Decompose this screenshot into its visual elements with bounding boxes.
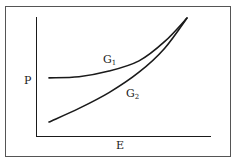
y-axis-label: P	[24, 74, 32, 87]
chart: P E G1 G2	[0, 0, 236, 163]
x-axis-label: E	[116, 139, 124, 152]
series-label-g1-main: G	[103, 53, 112, 66]
series-label-g1-sub: 1	[112, 59, 116, 67]
series-label-g1: G1	[103, 53, 116, 67]
series-label-g2-main: G	[126, 87, 135, 100]
curve-g2	[49, 18, 187, 122]
series-label-g2: G2	[126, 87, 139, 101]
series-label-g2-sub: 2	[135, 93, 139, 101]
chart-frame	[6, 7, 231, 157]
curve-g1	[49, 18, 187, 78]
